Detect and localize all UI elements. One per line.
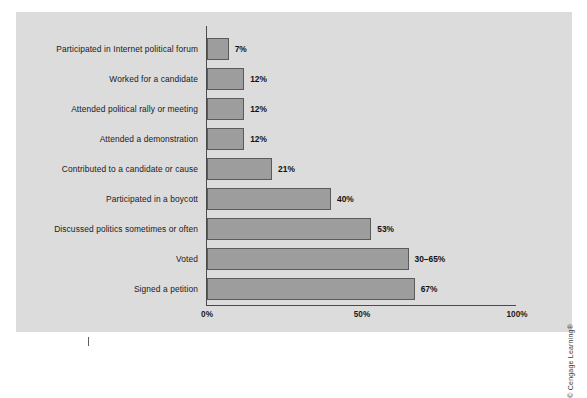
bar-value-label: 12% — [250, 128, 267, 150]
bar-row: Worked for a candidate12% — [16, 68, 572, 90]
bar-category-label: Attended a demonstration — [16, 128, 198, 150]
bar-row: Participated in Internet political forum… — [16, 38, 572, 60]
bar-value-label: 40% — [337, 188, 354, 210]
x-tick-label: 0% — [201, 310, 213, 319]
bar-value-label: 53% — [377, 218, 394, 240]
bar-row: Attended a demonstration12% — [16, 128, 572, 150]
bar — [207, 278, 415, 300]
bar — [207, 158, 272, 180]
bar-row: Discussed politics sometimes or often53% — [16, 218, 572, 240]
bar — [207, 188, 331, 210]
bar — [207, 128, 244, 150]
bar — [207, 248, 409, 270]
x-axis-line — [206, 305, 516, 306]
bar-row: Attended political rally or meeting12% — [16, 98, 572, 120]
bar-category-label: Attended political rally or meeting — [16, 98, 198, 120]
bar-value-label: 21% — [278, 158, 295, 180]
bar-value-label: 67% — [421, 278, 438, 300]
bar-category-label: Worked for a candidate — [16, 68, 198, 90]
bar — [207, 218, 371, 240]
bar-row: Participated in a boycott40% — [16, 188, 572, 210]
page-margin-tick — [88, 337, 89, 346]
bar-row: Contributed to a candidate or cause21% — [16, 158, 572, 180]
bar-category-label: Participated in Internet political forum — [16, 38, 198, 60]
bar-row: Voted30–65% — [16, 248, 572, 270]
bar-category-label: Contributed to a candidate or cause — [16, 158, 198, 180]
bar-category-label: Voted — [16, 248, 198, 270]
x-tick-label: 50% — [354, 310, 370, 319]
bar — [207, 38, 229, 60]
x-tick-label: 100% — [507, 310, 528, 319]
bar-row: Signed a petition67% — [16, 278, 572, 300]
bar-value-label: 7% — [235, 38, 247, 60]
bar — [207, 68, 244, 90]
bar-value-label: 12% — [250, 98, 267, 120]
bar-category-label: Discussed politics sometimes or often — [16, 218, 198, 240]
bar-category-label: Signed a petition — [16, 278, 198, 300]
bar-chart-plot-area: Participated in Internet political forum… — [16, 12, 572, 332]
bar-category-label: Participated in a boycott — [16, 188, 198, 210]
bar — [207, 98, 244, 120]
bar-value-label: 30–65% — [415, 248, 446, 270]
copyright-credit: © Cengage Learning® — [567, 324, 574, 398]
bar-value-label: 12% — [250, 68, 267, 90]
figure-panel: Participated in Internet political forum… — [16, 12, 572, 332]
